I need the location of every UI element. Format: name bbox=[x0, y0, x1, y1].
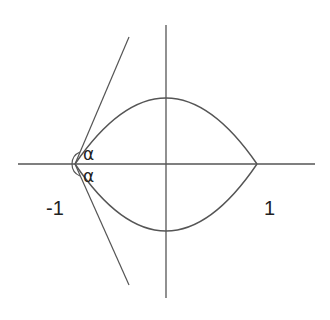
alpha-upper-label: α bbox=[83, 144, 94, 164]
lens-diagram: α α -1 1 bbox=[0, 0, 330, 320]
diagram-svg: α α -1 1 bbox=[0, 0, 330, 320]
alpha-lower-label: α bbox=[83, 166, 94, 186]
minus-one-label: -1 bbox=[46, 197, 64, 219]
one-label: 1 bbox=[264, 197, 275, 219]
